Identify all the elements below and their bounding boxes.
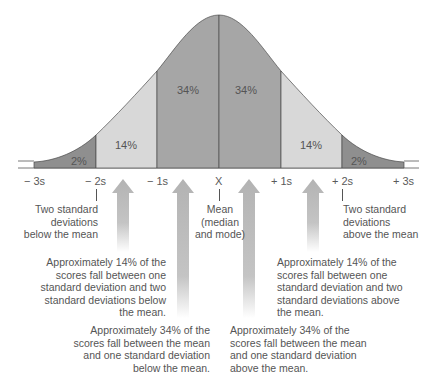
arrow-plus34 (238, 179, 260, 318)
axis-label-minus1s: − 1s (147, 175, 168, 188)
annotation-arrow-minus34: Approximately 34% of the scores fall bet… (30, 324, 210, 374)
region-label-right-tail: 2% (351, 155, 367, 167)
arrow-minus14 (112, 179, 134, 252)
tick-minus2s (96, 189, 97, 201)
tick-mean (219, 189, 220, 201)
annotation-arrow-plus34: Approximately 34% of the scores fall bet… (230, 324, 410, 374)
region-label-left-center: 34% (177, 84, 199, 96)
region-label-right-center: 34% (235, 84, 257, 96)
region-label-left-mid: 14% (115, 139, 137, 151)
axis-label-minus3s: − 3s (24, 175, 45, 188)
axis-label-plus3s: + 3s (393, 175, 414, 188)
annotation-mean: Mean (median and mode) (190, 203, 250, 241)
tick-plus2s (342, 189, 343, 201)
annotation-arrow-plus14: Approximately 14% of the scores fall bet… (277, 256, 437, 319)
region-label-left-tail: 2% (71, 155, 87, 167)
axis-label-minus2s: − 2s (85, 175, 106, 188)
arrow-minus34 (172, 179, 194, 318)
region-label-right-mid: 14% (300, 139, 322, 151)
region-right-mid (281, 71, 342, 168)
axis-label-plus2s: + 2s (332, 175, 353, 188)
annotation-arrow-minus14: Approximately 14% of the scores fall bet… (20, 256, 166, 319)
axis-label-mean: X (215, 175, 222, 188)
arrow-plus14 (302, 179, 324, 252)
axis-label-plus1s: + 1s (271, 175, 292, 188)
annotation-plus2s: Two standard deviations above the mean (343, 203, 437, 241)
region-left-mid (96, 71, 157, 168)
annotation-minus2s: Two standard deviations below the mean (14, 203, 98, 241)
